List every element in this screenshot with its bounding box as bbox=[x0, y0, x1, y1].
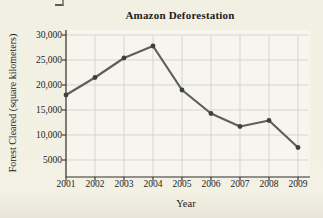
x-axis-title: Year bbox=[126, 198, 246, 209]
deforestation-figure: Amazon Deforestation Forest Cleared (squ… bbox=[0, 0, 323, 218]
y-tick-label: 10,000 bbox=[18, 130, 62, 141]
data-point bbox=[151, 44, 156, 49]
x-tick-label: 2006 bbox=[195, 179, 227, 190]
x-tick-label: 2007 bbox=[224, 179, 256, 190]
x-tick-label: 2009 bbox=[282, 179, 314, 190]
data-point bbox=[209, 111, 214, 116]
x-tick-label: 2002 bbox=[79, 179, 111, 190]
y-tick-label: 15,000 bbox=[18, 105, 62, 116]
data-point bbox=[64, 93, 69, 98]
y-tick-label: 25,000 bbox=[18, 55, 62, 66]
y-tick-label: 20,000 bbox=[18, 80, 62, 91]
x-tick-label: 2008 bbox=[253, 179, 285, 190]
data-point bbox=[180, 88, 185, 93]
axes bbox=[66, 30, 310, 177]
data-point bbox=[238, 124, 243, 129]
data-point bbox=[267, 118, 272, 123]
y-tick-label: 5000 bbox=[18, 155, 62, 166]
data-point bbox=[122, 56, 127, 61]
x-tick-label: 2005 bbox=[166, 179, 198, 190]
x-tick-label: 2001 bbox=[50, 179, 82, 190]
data-point bbox=[296, 145, 301, 150]
y-tick-label: 30,000 bbox=[18, 30, 62, 41]
data-point bbox=[93, 75, 98, 80]
x-tick-label: 2003 bbox=[108, 179, 140, 190]
x-tick-label: 2004 bbox=[137, 179, 169, 190]
